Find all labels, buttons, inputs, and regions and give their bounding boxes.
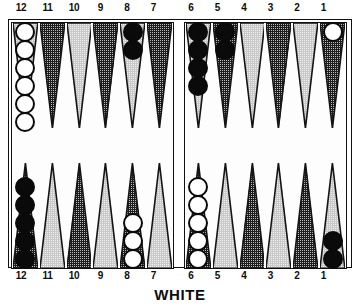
board-bar[interactable] — [174, 20, 184, 267]
white-checker[interactable] — [188, 231, 208, 251]
white-checker[interactable] — [188, 249, 208, 269]
point-triangle-dark — [266, 23, 291, 128]
white-checker[interactable] — [123, 213, 143, 233]
point-top-right-3[interactable] — [265, 23, 292, 146]
checker-stack[interactable] — [119, 23, 146, 59]
point-triangle-dark — [147, 23, 172, 128]
board-left-half — [11, 22, 174, 269]
point-triangle-dark — [93, 23, 118, 128]
point-label-top-12: 12 — [12, 2, 30, 13]
white-checker[interactable] — [15, 40, 35, 60]
point-top-left-10[interactable] — [66, 23, 93, 146]
point-label-bottom-1: 1 — [315, 270, 333, 281]
white-checker[interactable] — [15, 76, 35, 96]
black-checker[interactable] — [188, 22, 208, 42]
quadrant-top-left — [12, 23, 173, 146]
black-checker[interactable] — [323, 249, 343, 269]
point-bottom-right-6[interactable] — [185, 146, 212, 269]
black-checker[interactable] — [188, 76, 208, 96]
black-checker[interactable] — [215, 40, 235, 60]
white-checker[interactable] — [123, 249, 143, 269]
point-top-right-4[interactable] — [239, 23, 266, 146]
point-label-top-3: 3 — [262, 2, 280, 13]
black-checker[interactable] — [188, 58, 208, 78]
point-label-bottom-12: 12 — [12, 270, 30, 281]
point-label-top-1: 1 — [315, 2, 333, 13]
black-checker[interactable] — [15, 231, 35, 251]
point-triangle-light — [266, 163, 291, 268]
white-checker[interactable] — [15, 94, 35, 114]
white-checker[interactable] — [15, 112, 35, 132]
point-label-top-5: 5 — [209, 2, 227, 13]
point-top-right-2[interactable] — [292, 23, 319, 146]
black-checker[interactable] — [323, 231, 343, 251]
point-label-bottom-4: 4 — [235, 270, 253, 281]
checker-stack[interactable] — [319, 23, 346, 41]
checker-stack[interactable] — [319, 232, 346, 268]
point-top-right-1[interactable] — [319, 23, 346, 146]
player-caption: WHITE — [0, 286, 360, 303]
point-label-bottom-5: 5 — [209, 270, 227, 281]
white-checker[interactable] — [15, 58, 35, 78]
point-bottom-right-3[interactable] — [265, 146, 292, 269]
point-triangle-light — [213, 163, 238, 268]
point-bottom-left-11[interactable] — [39, 146, 66, 269]
point-top-right-5[interactable] — [212, 23, 239, 146]
point-top-left-9[interactable] — [92, 23, 119, 146]
point-bottom-left-7[interactable] — [146, 146, 173, 269]
point-bottom-right-5[interactable] — [212, 146, 239, 269]
point-bottom-left-9[interactable] — [92, 146, 119, 269]
top-point-number-row: 121110987654321 — [0, 2, 360, 18]
point-bottom-left-8[interactable] — [119, 146, 146, 269]
black-checker[interactable] — [15, 195, 35, 215]
black-checker[interactable] — [15, 249, 35, 269]
point-triangle-light — [293, 23, 318, 128]
point-top-left-12[interactable] — [12, 23, 39, 146]
white-checker[interactable] — [188, 213, 208, 233]
point-label-bottom-6: 6 — [182, 270, 200, 281]
point-bottom-right-1[interactable] — [319, 146, 346, 269]
point-bottom-right-2[interactable] — [292, 146, 319, 269]
black-checker[interactable] — [15, 213, 35, 233]
point-label-top-9: 9 — [92, 2, 110, 13]
point-label-top-7: 7 — [145, 2, 163, 13]
point-bottom-left-12[interactable] — [12, 146, 39, 269]
checker-stack[interactable] — [212, 23, 239, 59]
backgammon-diagram: 121110987654321 121110987654321 WHITE — [0, 0, 360, 307]
white-checker[interactable] — [323, 22, 343, 42]
black-checker[interactable] — [188, 40, 208, 60]
white-checker[interactable] — [188, 177, 208, 197]
white-checker[interactable] — [123, 231, 143, 251]
checker-stack[interactable] — [12, 178, 39, 268]
board-right-half — [184, 22, 347, 269]
point-triangle-dark — [67, 163, 92, 268]
point-label-bottom-3: 3 — [262, 270, 280, 281]
point-label-top-4: 4 — [235, 2, 253, 13]
checker-stack[interactable] — [185, 23, 212, 95]
white-checker[interactable] — [15, 22, 35, 42]
checker-stack[interactable] — [12, 23, 39, 131]
quadrant-bottom-left — [12, 146, 173, 269]
point-label-top-2: 2 — [288, 2, 306, 13]
point-label-bottom-2: 2 — [288, 270, 306, 281]
quadrant-bottom-right — [185, 146, 346, 269]
point-triangle-dark — [40, 23, 65, 128]
point-label-bottom-8: 8 — [118, 270, 136, 281]
point-top-left-8[interactable] — [119, 23, 146, 146]
point-bottom-right-4[interactable] — [239, 146, 266, 269]
point-bottom-left-10[interactable] — [66, 146, 93, 269]
point-label-top-10: 10 — [65, 2, 83, 13]
point-top-right-6[interactable] — [185, 23, 212, 146]
point-triangle-dark — [293, 163, 318, 268]
point-label-bottom-7: 7 — [145, 270, 163, 281]
black-checker[interactable] — [215, 22, 235, 42]
white-checker[interactable] — [188, 195, 208, 215]
black-checker[interactable] — [123, 40, 143, 60]
point-top-left-7[interactable] — [146, 23, 173, 146]
point-top-left-11[interactable] — [39, 23, 66, 146]
point-label-bottom-9: 9 — [92, 270, 110, 281]
checker-stack[interactable] — [185, 178, 212, 268]
black-checker[interactable] — [15, 177, 35, 197]
checker-stack[interactable] — [119, 214, 146, 268]
black-checker[interactable] — [123, 22, 143, 42]
